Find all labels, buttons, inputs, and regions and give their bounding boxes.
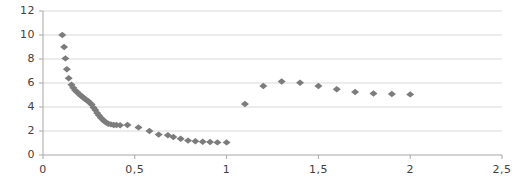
data-point [123, 122, 131, 128]
data-point [406, 91, 414, 97]
y-tick-label: 0 [9, 149, 35, 160]
plot-area [0, 0, 530, 178]
gridlines [43, 11, 502, 131]
y-axis-ticks [39, 11, 43, 155]
data-point [278, 78, 286, 84]
x-tick-label: 0 [23, 164, 63, 175]
data-point [333, 86, 341, 92]
x-tick-label: 2,5 [482, 164, 522, 175]
data-point [223, 139, 231, 145]
data-point [63, 66, 71, 72]
data-point [58, 32, 66, 38]
x-tick-label: 1 [207, 164, 247, 175]
x-axis-ticks [43, 155, 502, 159]
data-point [241, 101, 249, 107]
data-point [351, 89, 359, 95]
data-point [145, 128, 153, 134]
data-point [184, 137, 192, 143]
y-tick-label: 10 [9, 29, 35, 40]
y-tick-label: 6 [9, 77, 35, 88]
data-point [134, 124, 142, 130]
data-point [369, 90, 377, 96]
data-point [388, 91, 396, 97]
y-tick-label: 8 [9, 53, 35, 64]
x-tick-label: 2 [390, 164, 430, 175]
y-tick-label: 2 [9, 125, 35, 136]
data-point [177, 136, 185, 142]
y-tick-label: 4 [9, 101, 35, 112]
data-point [60, 44, 68, 50]
data-point [65, 75, 73, 81]
data-point [296, 80, 304, 86]
x-tick-label: 0,5 [115, 164, 155, 175]
series-branch-1 [58, 32, 230, 146]
data-point [259, 83, 267, 89]
scatter-chart: 024681012 00,511,522,5 [0, 0, 530, 178]
data-point [155, 131, 163, 137]
data-point [61, 55, 69, 61]
data-point [191, 138, 199, 144]
data-markers [58, 32, 414, 146]
y-tick-label: 12 [9, 5, 35, 16]
data-point [206, 139, 214, 145]
data-point [213, 139, 221, 145]
x-tick-label: 1,5 [298, 164, 338, 175]
data-point [199, 139, 207, 145]
data-point [314, 83, 322, 89]
